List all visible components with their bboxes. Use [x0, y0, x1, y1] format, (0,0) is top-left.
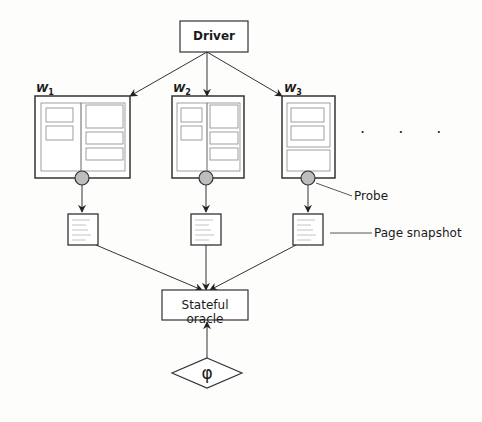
worker-window-w3 — [282, 96, 335, 178]
diagram-canvas — [0, 0, 482, 422]
driver-to-w3-arrow — [207, 52, 282, 96]
page-snapshot-w3 — [293, 214, 323, 245]
snapshot-w1-to-oracle-arrow — [96, 245, 202, 290]
property-phi-label: φ — [172, 363, 242, 383]
probe-w2 — [199, 171, 213, 185]
driver-to-w1-arrow — [130, 52, 207, 96]
worker-window-w1 — [35, 96, 130, 178]
probe-w3 — [301, 171, 315, 185]
probe-annotation: Probe — [354, 189, 388, 203]
worker-label-w1: W1 — [36, 82, 54, 97]
more-workers-ellipsis: . . . — [360, 118, 455, 137]
page-snapshot-annotation: Page snapshot — [374, 226, 462, 240]
worker-label-w2: W2 — [173, 82, 191, 97]
worker-label-w3: W3 — [284, 82, 302, 97]
probe-leader-line — [316, 183, 352, 196]
page-snapshot-w2 — [191, 214, 221, 245]
driver-label: Driver — [180, 29, 248, 43]
worker-window-w2 — [172, 96, 244, 178]
probe-w1 — [75, 171, 89, 185]
stateful-oracle-label: Stateful oracle — [162, 298, 248, 326]
snapshot-w3-to-oracle-arrow — [210, 245, 296, 290]
page-snapshot-w1 — [68, 214, 98, 245]
